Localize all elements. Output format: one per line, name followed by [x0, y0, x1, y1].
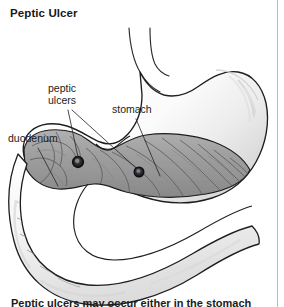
figure-caption: Peptic ulcers may occur either in the st…: [11, 297, 269, 307]
label-peptic-ulcers: peptic ulcers: [48, 83, 76, 106]
duodenal-ulcer: [73, 157, 84, 168]
gastric-ulcer: [134, 167, 144, 177]
label-stomach: stomach: [112, 104, 152, 116]
label-peptic-ulcers-line2: ulcers: [48, 95, 76, 107]
label-duodenum: duodenum: [8, 133, 58, 145]
esophagus: [129, 28, 169, 92]
peptic-ulcer-illustration: [0, 0, 284, 307]
label-peptic-ulcers-line1: peptic: [48, 83, 76, 95]
peptic-ulcer-figure-page: Peptic Ulcer: [0, 0, 284, 307]
